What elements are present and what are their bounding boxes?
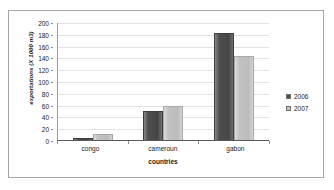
x-axis-category-labels: congocameroungabon bbox=[57, 145, 269, 152]
y-axis-tick-label: 160 bbox=[38, 43, 49, 50]
bar-congo-2006 bbox=[73, 138, 93, 140]
y-axis-tick-mark bbox=[51, 70, 53, 71]
x-axis-label-congo: congo bbox=[82, 145, 100, 152]
x-axis-tick-mark bbox=[128, 141, 129, 144]
y-axis-tick-mark bbox=[51, 47, 53, 48]
bar-gabon-2006 bbox=[214, 33, 234, 140]
x-axis-title: countries bbox=[57, 158, 269, 165]
chart-legend: 20062007 bbox=[286, 93, 320, 117]
y-axis-tick-mark bbox=[51, 82, 53, 83]
chart-frame: exportations (X 1000 m3) 020406080100120… bbox=[8, 10, 324, 178]
y-axis-tick-mark bbox=[51, 35, 53, 36]
y-axis-tick-mark bbox=[51, 141, 53, 142]
y-axis-tick-labels: 020406080100120140160180200 bbox=[27, 23, 53, 141]
bar-groups bbox=[58, 23, 269, 140]
y-axis-tick-label: 120 bbox=[38, 67, 49, 74]
y-axis-tick-label: 80 bbox=[42, 90, 49, 97]
plot-area bbox=[57, 23, 269, 141]
y-axis-tick-label: 0 bbox=[45, 138, 49, 145]
y-axis-tick-mark bbox=[51, 94, 53, 95]
x-axis-label-cameroun: cameroun bbox=[148, 145, 177, 152]
dark-gray-swatch bbox=[286, 94, 291, 99]
y-axis-tick-mark bbox=[51, 58, 53, 59]
x-axis-label-gabon: gabon bbox=[226, 145, 244, 152]
y-axis-tick-mark bbox=[51, 106, 53, 107]
bar-cameroun-2007 bbox=[163, 106, 183, 140]
y-axis-tick-label: 100 bbox=[38, 79, 49, 86]
y-axis-tick-label: 180 bbox=[38, 31, 49, 38]
y-axis-tick-label: 20 bbox=[42, 126, 49, 133]
y-axis-tick-mark bbox=[51, 129, 53, 130]
x-axis-tick-mark bbox=[269, 141, 270, 144]
bar-group bbox=[214, 23, 254, 140]
x-axis-tick-mark bbox=[198, 141, 199, 144]
x-axis-tick-mark bbox=[57, 141, 58, 144]
legend-item-2006[interactable]: 2006 bbox=[286, 93, 320, 100]
bar-gabon-2007 bbox=[234, 56, 254, 140]
legend-label: 2007 bbox=[294, 105, 308, 112]
y-axis-tick-label: 40 bbox=[42, 114, 49, 121]
y-axis-tick-mark bbox=[51, 117, 53, 118]
bar-cameroun-2006 bbox=[143, 111, 163, 141]
bar-group bbox=[143, 23, 183, 140]
bar-congo-2007 bbox=[93, 134, 113, 140]
light-gray-swatch bbox=[286, 106, 291, 111]
legend-label: 2006 bbox=[294, 93, 308, 100]
legend-item-2007[interactable]: 2007 bbox=[286, 105, 320, 112]
chart-screenshot: exportations (X 1000 m3) 020406080100120… bbox=[0, 0, 334, 190]
y-axis-tick-label: 60 bbox=[42, 102, 49, 109]
bar-group bbox=[73, 23, 113, 140]
y-axis-tick-mark bbox=[51, 23, 53, 24]
y-axis-tick-label: 140 bbox=[38, 55, 49, 62]
y-axis-tick-label: 200 bbox=[38, 20, 49, 27]
